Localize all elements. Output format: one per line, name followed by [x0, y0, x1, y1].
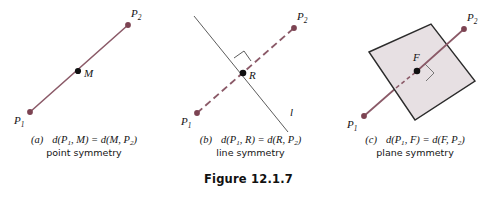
panel-c-plane-symmetry: P1 F P2 (c)d(P1, F) = d(F, P2) plane sym… [333, 0, 497, 165]
panel-a-caption-text: point symmetry [0, 147, 168, 158]
point-m-marker [75, 68, 81, 74]
point-m-label: M [83, 67, 94, 79]
panel-c-letter: (c) [365, 134, 377, 145]
point-f-label: F [412, 51, 420, 63]
point-r-marker [240, 70, 247, 77]
segment-p1-p2 [197, 28, 294, 113]
panel-a-letter: (a) [31, 134, 43, 145]
figure-title: Figure 12.1.7 [0, 172, 497, 186]
point-p2-label: P2 [466, 11, 478, 26]
panel-b-caption-mid: , R) = d(R, P [240, 134, 294, 145]
segment-p1-to-plane [364, 88, 396, 116]
point-p2-label: P2 [296, 10, 308, 25]
panel-b-caption-math: (b)d(P1, R) = d(R, P2) [168, 134, 333, 147]
panel-b-caption-text: line symmetry [168, 147, 333, 158]
point-p2-marker [291, 25, 297, 31]
panel-b-letter: (b) [200, 134, 212, 145]
point-r-label: R [248, 69, 256, 81]
point-p2-marker [125, 22, 131, 28]
panel-c-caption-text: plane symmetry [333, 147, 497, 158]
point-p1-label: P1 [346, 118, 357, 132]
panel-c-caption-mid: , F) = d(F, P [405, 134, 458, 145]
panel-c-diagram: P1 F P2 [333, 0, 497, 132]
panel-a-caption-suffix: ) [134, 134, 138, 145]
panel-c-caption-math: (c)d(P1, F) = d(F, P2) [333, 134, 497, 147]
panel-b-diagram: P1 R P2 l [168, 0, 333, 132]
figure-12-1-7: P1 M P2 (a)d(P1, M) = d(M, P2) point sym… [0, 0, 497, 197]
panel-b-caption-prefix: d(P [221, 134, 236, 145]
panel-b-line-symmetry: P1 R P2 l (b)d(P1, R) = d(R, P2) line sy… [168, 0, 333, 165]
plane-f [369, 24, 475, 120]
point-p1-marker [194, 110, 200, 116]
point-p2-label: P2 [130, 7, 142, 22]
point-p1-marker [361, 113, 367, 119]
point-p1-marker [27, 109, 33, 115]
point-p2-marker [461, 26, 467, 32]
point-p1-label: P1 [13, 114, 24, 129]
panel-b-caption-suffix: ) [298, 134, 302, 145]
panel-a-point-symmetry: P1 M P2 (a)d(P1, M) = d(M, P2) point sym… [0, 0, 168, 165]
mirror-line-label: l [290, 106, 293, 118]
panel-a-caption-mid: , M) = d(M, P [71, 134, 130, 145]
right-angle-marker [234, 51, 251, 61]
panel-c-caption-suffix: ) [461, 134, 465, 145]
panel-c-caption-prefix: d(P [386, 134, 401, 145]
panel-a-caption-math: (a)d(P1, M) = d(M, P2) [0, 134, 168, 147]
point-p1-label: P1 [180, 115, 191, 130]
point-f-marker [414, 68, 421, 75]
panel-a-diagram: P1 M P2 [0, 0, 168, 132]
panel-a-caption-prefix: d(P [52, 134, 67, 145]
